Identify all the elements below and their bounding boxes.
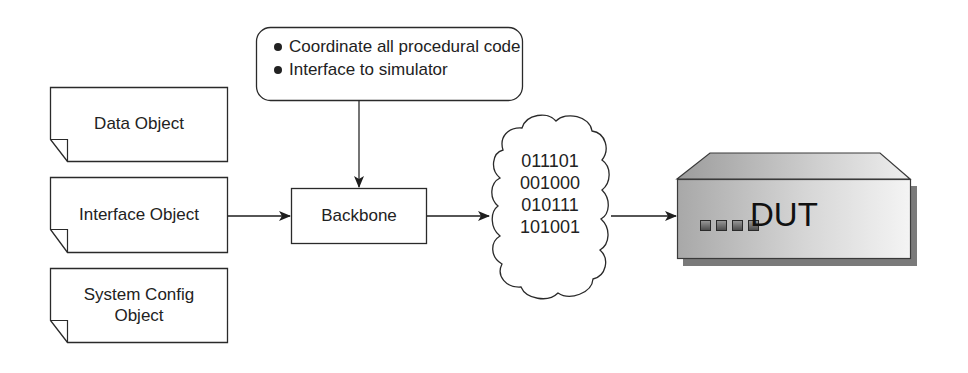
- bit-row: 001000: [500, 172, 600, 194]
- label-line: Data Object: [94, 114, 184, 133]
- indicator-light-icon: [701, 221, 711, 231]
- bit-row: 010111: [500, 194, 600, 216]
- indicator-light-icon: [733, 221, 743, 231]
- label-line: System Config: [50, 284, 228, 305]
- bullet-icon: [274, 66, 282, 74]
- bullet-icon: [274, 43, 282, 51]
- label-line: Interface Object: [79, 205, 199, 224]
- note-text: Coordinate all procedural code Interface…: [256, 27, 522, 100]
- note-bullet-text: Interface to simulator: [289, 58, 448, 81]
- bit-row: 011101: [500, 150, 600, 172]
- bit-row: 101001: [500, 216, 600, 238]
- backbone-label: Backbone: [291, 205, 427, 226]
- note-bullet-2: Interface to simulator: [274, 58, 522, 81]
- note-bullet-text: Coordinate all procedural code: [289, 35, 521, 58]
- indicator-light-icon: [717, 221, 727, 231]
- data-object-label: Data Object: [50, 113, 228, 134]
- note-bullet-1: Coordinate all procedural code: [274, 35, 522, 58]
- label-line: Object: [50, 305, 228, 326]
- bitstream-text: 011101 001000 010111 101001: [500, 150, 600, 238]
- system-config-object-label: System Config Object: [50, 284, 228, 326]
- interface-object-label: Interface Object: [50, 204, 228, 225]
- dut-label: DUT: [750, 196, 818, 234]
